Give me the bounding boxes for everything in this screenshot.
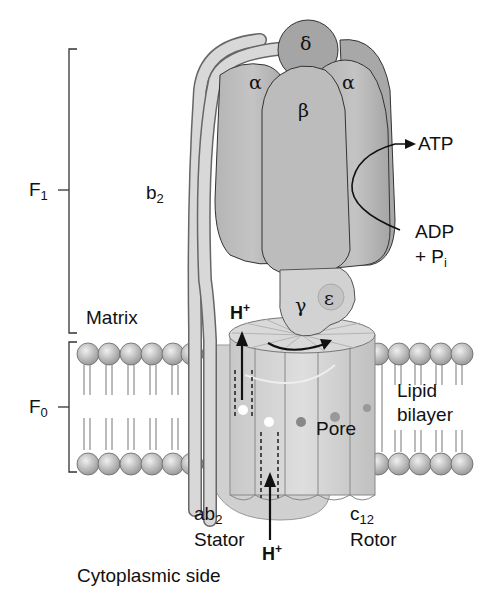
c12-label: c12 [350,504,374,526]
pore-label: Pore [316,419,356,438]
c12-rotor [229,317,375,500]
pore-site-dot [363,404,371,412]
beta-subunit [262,66,350,275]
f1-label: F1 [29,180,48,202]
alpha-right-label: α [342,73,355,92]
rotor-label: Rotor [350,530,396,549]
cytoplasmic-side-label: Cytoplasmic side [77,566,221,585]
b2-label: b2 [146,183,164,205]
alpha-left-label: α [249,73,262,92]
lipid-label: Lipid [397,381,437,400]
h-plus-top-label: H+ [230,302,250,322]
gamma-label: γ [295,296,306,315]
delta-label: δ [300,34,311,53]
ab2-label: ab2 [194,504,222,526]
beta-label: β [298,101,309,120]
pore-site-dot [296,417,306,427]
bilayer-label: bilayer [397,405,453,424]
f1-bracket [58,49,77,333]
epsilon-label: ε [324,289,334,308]
matrix-label: Matrix [86,308,138,327]
h-plus-bottom-label: H+ [262,543,282,563]
f0-label: F0 [29,397,48,419]
stator-label: Stator [194,530,245,549]
atp-label: ATP [418,134,454,153]
adp-label: ADP [415,222,454,241]
pi-label: + Pi [415,247,447,269]
f0-bracket [58,342,77,472]
lipid-bilayer-left [77,343,203,475]
